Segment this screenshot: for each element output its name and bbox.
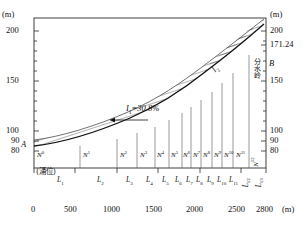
segment-l3-sub: 3 xyxy=(130,181,133,186)
station-n2: N2 xyxy=(120,151,127,159)
station-n7-sup: 7 xyxy=(198,150,200,155)
station-n2-sup: 2 xyxy=(125,150,127,155)
left-axis-ticks xyxy=(34,31,39,151)
datum-note-label: (涌位) xyxy=(36,168,56,176)
xtick-1000: 1000 xyxy=(103,205,120,214)
segment-l11-sub: 11 xyxy=(233,181,238,186)
station-n12-sym: N xyxy=(252,162,260,167)
segment-l1: L1 xyxy=(57,176,64,186)
segment-l6-sub: 6 xyxy=(179,181,182,186)
segment-l5-sub: 5 xyxy=(166,181,169,186)
left-tick-80: 80 xyxy=(11,146,20,155)
slope-i1-label: I1=30.8% xyxy=(126,104,159,115)
station-n10-sup: 10 xyxy=(229,150,234,155)
segment-l1-sub: 1 xyxy=(61,181,64,186)
slope-i1-value: =30.8% xyxy=(132,103,160,113)
segment-l10: L10 xyxy=(217,176,226,186)
station-n1-sup: 1 xyxy=(88,150,90,155)
segment-l5: L5 xyxy=(162,176,169,186)
left-tick-200: 200 xyxy=(6,26,19,35)
segment-l13-sub: 13 xyxy=(259,178,264,183)
segment-l7: L7 xyxy=(186,176,193,186)
right-axis-ticks xyxy=(261,31,266,151)
station-n12-sup: 12 xyxy=(250,158,255,163)
segment-l10-sub: 10 xyxy=(221,181,226,186)
station-n5: N5 xyxy=(171,151,178,159)
station-n1: N1 xyxy=(83,151,90,159)
station-n3-sup: 3 xyxy=(145,150,147,155)
station-n6: N6 xyxy=(183,151,190,159)
station-n6-sup: 6 xyxy=(188,150,190,155)
station-n0-sup: 0 xyxy=(42,150,44,155)
right-tick-90: 90 xyxy=(270,136,279,145)
left-tick-150: 150 xyxy=(6,76,19,85)
station-n12: N12 xyxy=(251,158,259,167)
right-tick-200: 200 xyxy=(270,26,283,35)
profile-diagram: (m) 200 150 100 90 80 A (m) 200 171.24 1… xyxy=(0,0,307,235)
segment-l8: L8 xyxy=(196,176,203,186)
diagram-canvas xyxy=(0,0,307,235)
segment-l2-sub: 2 xyxy=(101,181,104,186)
segment-l2: L2 xyxy=(97,176,104,186)
earthwork-hatch-band xyxy=(34,19,264,146)
left-unit-label: (m) xyxy=(2,10,14,19)
segment-l12: L12 xyxy=(242,178,252,187)
station-n4: N4 xyxy=(157,151,164,159)
right-tick-150: 150 xyxy=(270,76,283,85)
segment-l9-sub: 9 xyxy=(211,181,214,186)
station-n8-sup: 8 xyxy=(208,150,210,155)
segment-l4: L4 xyxy=(146,176,153,186)
right-tick-100: 100 xyxy=(270,126,283,135)
segment-l12-sym: L xyxy=(241,183,250,187)
station-n7: N7 xyxy=(193,151,200,159)
segment-l3: L3 xyxy=(126,176,133,186)
station-n10: N10 xyxy=(224,151,233,159)
station-n4-sup: 4 xyxy=(162,150,164,155)
left-tick-90: 90 xyxy=(11,136,20,145)
watershed-label: 分水岭 xyxy=(253,58,260,79)
left-tick-100: 100 xyxy=(6,126,19,135)
segment-l8-sub: 8 xyxy=(200,181,203,186)
xtick-2800: 2800 xyxy=(256,205,273,214)
xtick-0: 0 xyxy=(31,205,35,214)
segment-l9: L9 xyxy=(207,176,214,186)
segment-l12-sub: 12 xyxy=(246,178,251,183)
segment-l7-sub: 7 xyxy=(190,181,193,186)
segment-l13: L13 xyxy=(255,178,265,187)
segment-l11: L11 xyxy=(229,176,238,186)
station-n8: N8 xyxy=(203,151,210,159)
xtick-500: 500 xyxy=(64,205,77,214)
station-n0: N0 xyxy=(37,151,44,159)
station-n9: N9 xyxy=(214,151,221,159)
station-n11-sup: 11 xyxy=(241,150,245,155)
station-n11: N11 xyxy=(236,151,245,159)
xtick-2000: 2000 xyxy=(186,205,203,214)
axis-frame xyxy=(34,18,266,168)
x-unit-label: (m) xyxy=(282,205,294,214)
xtick-2500: 2500 xyxy=(228,205,245,214)
xtick-1500: 1500 xyxy=(145,205,162,214)
station-n5-sup: 5 xyxy=(176,150,178,155)
bottom-axis-ticks xyxy=(34,168,266,173)
point-a-label: A xyxy=(21,140,26,149)
right-tick-80: 80 xyxy=(270,146,279,155)
station-n3: N3 xyxy=(140,151,147,159)
segment-l6: L6 xyxy=(175,176,182,186)
point-b-label: B xyxy=(269,59,274,68)
right-unit-label: (m) xyxy=(270,10,282,19)
station-n9-sup: 9 xyxy=(219,150,221,155)
right-tick-17124: 171.24 xyxy=(270,40,293,49)
segment-l4-sub: 4 xyxy=(150,181,153,186)
segment-l13-sym: L xyxy=(254,183,263,187)
